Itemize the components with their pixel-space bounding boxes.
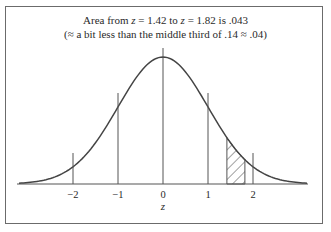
tick-label: 0 bbox=[160, 189, 165, 200]
tick-label: 2 bbox=[250, 189, 255, 200]
normal-curve-plot: −2−1012 z bbox=[0, 0, 331, 232]
tick-label: −1 bbox=[112, 189, 123, 200]
tick-label: −2 bbox=[67, 189, 78, 200]
plot-area: −2−1012 bbox=[17, 48, 308, 200]
shaded-area bbox=[227, 138, 245, 184]
tick-label: 1 bbox=[205, 189, 210, 200]
x-axis-label: z bbox=[160, 200, 166, 212]
